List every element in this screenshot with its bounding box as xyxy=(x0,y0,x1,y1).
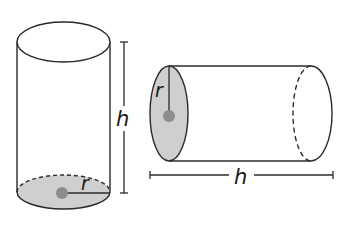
horizontal-cylinder-right-hidden-edge xyxy=(293,66,311,161)
horizontal-cylinder-radius-label: r xyxy=(155,79,164,101)
upright-cylinder: r h xyxy=(17,22,129,209)
upright-cylinder-top xyxy=(17,22,110,62)
cylinders-diagram: r h r h xyxy=(0,0,354,229)
upright-cylinder-radius-label: r xyxy=(81,172,90,194)
horizontal-cylinder-center-dot xyxy=(163,110,175,122)
horizontal-cylinder-height-label: h xyxy=(234,165,247,189)
upright-cylinder-height-label: h xyxy=(116,107,129,131)
horizontal-cylinder: r h xyxy=(150,66,333,189)
upright-cylinder-center-dot xyxy=(56,187,68,199)
horizontal-cylinder-right-front-edge xyxy=(311,66,332,161)
